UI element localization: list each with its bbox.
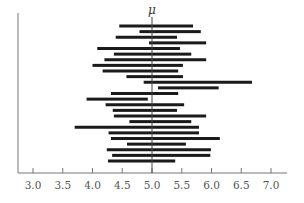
interval-bar — [106, 103, 185, 106]
interval-bar — [113, 109, 177, 112]
interval-bar — [103, 70, 179, 73]
interval-bar — [114, 53, 191, 56]
interval-bar — [111, 137, 220, 140]
interval-bar — [104, 58, 206, 61]
interval-bar — [87, 98, 148, 101]
x-tick-label: 6.5 — [233, 179, 250, 191]
interval-bar — [140, 30, 201, 33]
interval-bar — [119, 25, 193, 28]
confidence-interval-chart: 3.03.54.04.55.05.56.06.57.0 μ — [0, 0, 304, 203]
interval-bar — [158, 86, 219, 89]
interval-bar — [149, 41, 206, 44]
x-tick-label: 3.0 — [25, 179, 42, 191]
interval-bar — [93, 64, 183, 67]
interval-bar — [109, 131, 199, 134]
interval-bar — [144, 81, 252, 84]
interval-bar — [129, 120, 191, 123]
interval-bar — [112, 154, 210, 157]
x-tick-label: 5.0 — [144, 179, 161, 191]
x-tick-label: 5.5 — [173, 179, 190, 191]
x-tick-label: 3.5 — [54, 179, 71, 191]
interval-bars — [75, 25, 252, 163]
interval-bar — [114, 115, 206, 118]
x-tick-label: 4.0 — [84, 179, 101, 191]
x-tick-label: 7.0 — [263, 179, 280, 191]
interval-bar — [127, 143, 186, 146]
interval-bar — [108, 160, 175, 163]
x-tick-label: 6.0 — [203, 179, 220, 191]
mean-label: μ — [148, 3, 156, 17]
interval-bar — [111, 92, 178, 95]
interval-bar — [116, 36, 177, 39]
interval-bar — [107, 148, 211, 151]
interval-bar — [97, 47, 180, 50]
interval-bar — [75, 126, 199, 129]
interval-bar — [126, 75, 183, 78]
x-tick-label: 4.5 — [114, 179, 131, 191]
